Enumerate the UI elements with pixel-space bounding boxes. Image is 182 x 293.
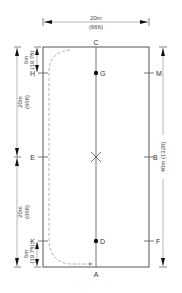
marker-e: E: [30, 154, 35, 161]
marker-k: K: [30, 238, 35, 245]
top-dimension-metric: 20m: [90, 15, 102, 21]
left-dim-lower-imperial: (66ft): [24, 205, 30, 219]
marker-b: B: [153, 154, 158, 161]
marker-dot-g: [94, 71, 98, 75]
marker-c: C: [93, 39, 98, 46]
marker-h: H: [30, 70, 35, 77]
marker-d: D: [100, 238, 105, 245]
arena-diagram: 20m (66ft) C H M G E B K F D A 20m (66ft…: [0, 0, 182, 293]
left-dim-bottom-imperial: (19.7ft): [29, 244, 35, 263]
dashed-ride-path: [49, 50, 92, 264]
left-inner-dimension-bottom: [34, 242, 41, 267]
marker-f: F: [156, 238, 160, 245]
marker-g: G: [100, 70, 105, 77]
left-dim-upper-metric: 20m: [17, 96, 23, 108]
right-dimension-label: 40m (132ft): [160, 142, 166, 173]
marker-a: A: [94, 271, 99, 278]
left-dim-lower-metric: 20m: [17, 206, 23, 218]
top-dimension-imperial: (66ft): [89, 24, 103, 30]
marker-m: M: [156, 70, 162, 77]
left-dim-top-imperial: (19.7ft): [29, 50, 35, 69]
marker-dot-d: [94, 239, 98, 243]
arrow-right-icon: [140, 20, 148, 24]
path-arrow-icon: [89, 262, 93, 266]
left-outer-dimension: [14, 47, 21, 267]
arrow-left-icon: [44, 20, 52, 24]
left-dim-upper-imperial: (66ft): [24, 95, 30, 109]
left-inner-dimension-top: [34, 47, 41, 72]
